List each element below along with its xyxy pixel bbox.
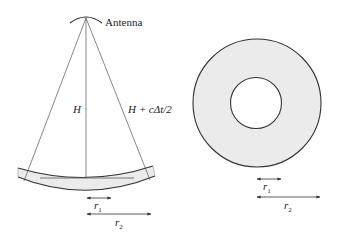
antenna-label: Antenna xyxy=(105,16,142,28)
diagram-svg: Antenna H H + cΔt/2 r1 r2 r1 r2 xyxy=(0,0,338,237)
r1-label-plan: r1 xyxy=(263,180,271,195)
nadir-height-label: H xyxy=(72,103,82,115)
plan-view: r1 r2 xyxy=(193,39,321,214)
r2-label: r2 xyxy=(115,216,123,231)
beam-left-edge xyxy=(24,18,86,181)
r1-label: r1 xyxy=(94,199,102,214)
inner-circle xyxy=(231,78,282,129)
radar-footprint-diagram: Antenna H H + cΔt/2 r1 r2 r1 r2 xyxy=(0,0,338,237)
r2-label-plan: r2 xyxy=(284,199,292,214)
slant-range-label: H + cΔt/2 xyxy=(127,103,172,115)
side-view: Antenna H H + cΔt/2 r1 r2 xyxy=(18,16,172,231)
beam-right-edge xyxy=(86,18,150,180)
